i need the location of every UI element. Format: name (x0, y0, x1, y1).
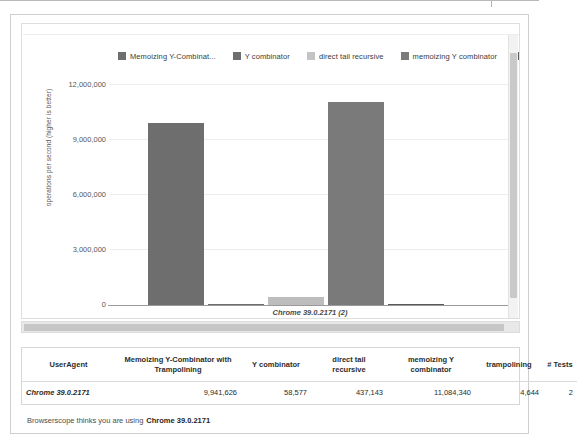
page-top-rule (0, 0, 539, 6)
results-table-container: UserAgent Memoizing Y-Combinator with Tr… (21, 347, 520, 405)
browser-detection-prefix: Browserscope thinks you are using (27, 416, 143, 425)
cell-tests: 2 (543, 382, 577, 404)
y-axis-ticks: 12,000,000 9,000,000 6,000,000 3,000,000… (50, 84, 106, 306)
top-rule-tick (491, 1, 492, 7)
legend-item-y-combinator[interactable]: Y combinator (233, 52, 290, 61)
table-header-row: UserAgent Memoizing Y-Combinator with Tr… (22, 348, 577, 382)
chart-legend: Memoizing Y-Combinat... Y combinator dir… (28, 48, 512, 64)
y-tick-label: 12,000,000 (68, 80, 106, 89)
legend-swatch-icon (307, 52, 315, 60)
cell-memoizing-y-combinator: 11,084,340 (387, 382, 475, 404)
chart-panel: Memoizing Y-Combinat... Y combinator dir… (21, 23, 520, 319)
x-axis-line (108, 305, 512, 306)
cell-y-combinator: 58,577 (241, 382, 311, 404)
chart-top-divider (23, 34, 520, 35)
legend-label: Y combinator (245, 52, 290, 61)
chart-horizontal-scrollbar-thumb[interactable] (24, 324, 504, 331)
column-header-tests[interactable]: # Tests (543, 348, 577, 382)
plot-area (110, 84, 510, 306)
chart-vertical-scrollbar[interactable] (508, 35, 518, 319)
column-header-trampolining[interactable]: trampolining (475, 348, 543, 382)
cell-trampolining: 4,644 (475, 382, 543, 404)
bar-direct-tail-recursive[interactable] (268, 297, 324, 305)
bar-trampolining[interactable] (388, 304, 444, 305)
column-header-useragent[interactable]: UserAgent (22, 348, 115, 382)
legend-label: memoizing Y combinator (413, 52, 497, 61)
column-header-y-combinator[interactable]: Y combinator (241, 348, 311, 382)
column-header-direct-tail-recursive[interactable]: direct tail recursive (311, 348, 387, 382)
y-tick-label: 6,000,000 (73, 190, 106, 199)
bar-y-combinator[interactable] (208, 304, 264, 305)
results-table: UserAgent Memoizing Y-Combinator with Tr… (22, 348, 577, 404)
legend-swatch-icon (401, 52, 409, 60)
cell-direct-tail-recursive: 437,143 (311, 382, 387, 404)
gridline (110, 84, 510, 85)
column-header-memoizing-y-combinator[interactable]: memoizing Y combinator (387, 348, 475, 382)
legend-item-memoizing-y-combinator-with-trampolining[interactable]: Memoizing Y-Combinat... (118, 52, 216, 61)
column-header-memoizing-y-combinator-with-trampolining[interactable]: Memoizing Y-Combinator with Trampolining (115, 348, 241, 382)
cell-memoizing-y-combinator-with-trampolining: 9,941,626 (115, 382, 241, 404)
chart-horizontal-scrollbar[interactable] (21, 321, 520, 333)
y-tick-label: 9,000,000 (73, 135, 106, 144)
legend-swatch-icon (233, 52, 241, 60)
bar-memoizing-y-combinator[interactable] (328, 102, 384, 305)
legend-item-direct-tail-recursive[interactable]: direct tail recursive (307, 52, 384, 61)
legend-label: direct tail recursive (319, 52, 384, 61)
legend-item-memoizing-y-combinator[interactable]: memoizing Y combinator (401, 52, 497, 61)
y-tick-label: 0 (102, 300, 106, 309)
x-axis-label: Chrome 39.0.2171 (2) (110, 308, 510, 317)
chart-vertical-scrollbar-thumb[interactable] (510, 53, 517, 298)
detected-browser-name: Chrome 39.0.2171 (146, 416, 210, 425)
table-row: Chrome 39.0.2171 9,941,626 58,577 437,14… (22, 382, 577, 404)
browser-detection-note: Browserscope thinks you are using Chrome… (21, 412, 520, 428)
y-tick-label: 3,000,000 (73, 245, 106, 254)
results-card: Memoizing Y-Combinat... Y combinator dir… (10, 14, 529, 434)
legend-label: Memoizing Y-Combinat... (130, 52, 216, 61)
legend-swatch-icon (118, 52, 126, 60)
cell-useragent: Chrome 39.0.2171 (22, 382, 115, 404)
bar-memoizing-y-combinator-with-trampolining[interactable] (148, 123, 204, 305)
